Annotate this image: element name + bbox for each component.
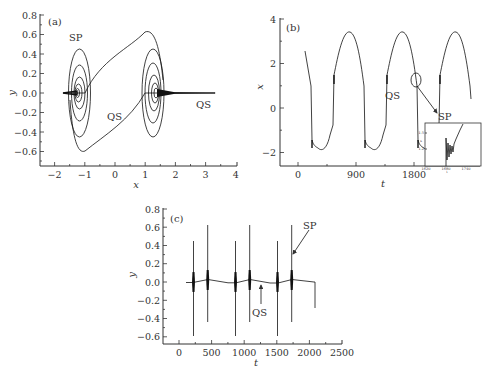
panel-c-ytick-label: 0.0 — [145, 277, 160, 288]
panel-b-inset: 1.5 1.2 1620 1680 1740 t x — [418, 123, 481, 174]
panel-c-xtick-label: 2500 — [330, 347, 354, 358]
panel-c-xtick-label: 500 — [203, 347, 221, 358]
panel-a-yticks — [40, 15, 44, 161]
panel-a-xtick-label: −1 — [78, 169, 92, 180]
panel-a-ytick-label: 0.4 — [22, 49, 37, 60]
panel-a-xtick-label: 2 — [172, 169, 178, 180]
panel-c-xtick-label: 0 — [176, 347, 182, 358]
panel-a-ytick-label: −0.2 — [14, 107, 37, 118]
panel-b-inset-ylabel: x — [420, 139, 422, 143]
panel-c-xtick-label: 1000 — [232, 347, 256, 358]
panel-b-annotation-sp: SP — [438, 111, 452, 122]
panel-a-xtick-label: 3 — [203, 169, 209, 180]
panel-b-arrow — [417, 86, 437, 113]
panel-a-xtick-label: 1 — [142, 169, 148, 180]
panel-a-ytick-label: 0.6 — [22, 29, 37, 40]
panel-a-annotation-sp: SP — [69, 32, 83, 43]
panel-b-inset-ytick: 1.2 — [418, 147, 424, 151]
panel-a-ytick-label: −0.6 — [14, 146, 37, 157]
panel-b-ytick-label: 0 — [270, 103, 276, 114]
panel-a-annotation-qs: QS — [196, 99, 211, 110]
panel-c-arrow-sp — [293, 230, 309, 254]
panel-c-ylabel: y — [126, 272, 137, 279]
panel-b-xticks — [298, 162, 414, 166]
panel-c-ytick-label: 0.6 — [145, 222, 160, 233]
panel-c-ytick-label: 0.8 — [145, 204, 160, 215]
panel-a-xtick-label: −2 — [48, 169, 62, 180]
panel-a-ytick-label: 0.2 — [22, 68, 37, 79]
panel-b-inset-ytick: 1.5 — [418, 131, 424, 135]
panel-a-ytick-label: −0.4 — [14, 127, 37, 138]
panel-c-xticks — [179, 340, 326, 344]
panel-a-xticks — [55, 162, 221, 166]
panel-b: 4 2 0 −2 0 900 1800 t x (b) — [254, 14, 481, 190]
panel-b-ytick-label: 4 — [270, 14, 276, 25]
panel-b-xlabel: t — [381, 178, 386, 189]
panel-a-label: (a) — [48, 16, 62, 27]
panel-a-ytick-label: 0.8 — [22, 10, 37, 21]
panel-b-bursts — [312, 75, 440, 148]
panel-a: 0.8 0.6 0.4 0.2 0.0 −0.2 −0.4 −0.6 −2 — [6, 10, 239, 191]
panel-a-xlabel: x — [133, 179, 139, 190]
panel-c-annotation-sp: SP — [303, 220, 317, 231]
panel-b-inset-xtick: 1740 — [462, 167, 471, 171]
panel-c-spikes — [192, 225, 293, 336]
panel-a-trajectory — [63, 32, 215, 152]
panel-b-ylabel: x — [254, 84, 265, 90]
panel-c-xtick-label: 2000 — [297, 347, 321, 358]
panel-c: 0.8 0.6 0.4 0.2 0.0 −0.2 −0.4 −0.6 0 500… — [126, 204, 354, 369]
panel-c-ytick-label: −0.4 — [137, 313, 160, 324]
panel-b-annotation-qs: QS — [385, 90, 400, 101]
panel-b-ytick-label: −2 — [262, 147, 276, 158]
panel-c-xtick-label: 1500 — [265, 347, 289, 358]
panel-a-xtick-label: 0 — [112, 169, 118, 180]
panel-b-inset-xtick: 1620 — [422, 167, 431, 171]
panel-b-xtick-label: 900 — [347, 169, 365, 180]
figure: 0.8 0.6 0.4 0.2 0.0 −0.2 −0.4 −0.6 −2 — [0, 0, 491, 372]
panel-c-ytick-label: −0.2 — [137, 295, 160, 306]
panel-b-xtick-label: 0 — [295, 169, 301, 180]
panel-c-ytick-label: 0.4 — [145, 240, 160, 251]
panel-b-yticks — [280, 19, 284, 153]
panel-c-annotation-qs: QS — [252, 307, 267, 318]
panel-c-ytick-label: −0.6 — [137, 331, 160, 342]
panel-a-xtick-label: 4 — [233, 169, 239, 180]
panel-c-yticks — [163, 209, 167, 337]
panel-c-ytick-label: 0.2 — [145, 258, 160, 269]
panel-a-ytick-label: 0.0 — [22, 88, 37, 99]
panel-c-label: (c) — [170, 213, 184, 224]
panel-c-xlabel: t — [254, 357, 259, 368]
panel-b-ytick-label: 2 — [270, 58, 276, 69]
panel-b-label: (b) — [286, 22, 300, 33]
panel-a-ylabel: y — [6, 90, 17, 97]
panel-a-annotation-qs: QS — [107, 111, 122, 122]
